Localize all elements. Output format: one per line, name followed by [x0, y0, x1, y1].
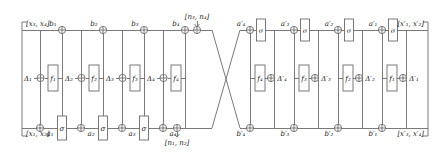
top-label-r1: a′₄ — [237, 20, 246, 28]
noise-top-label: [n₃, n₄] — [185, 13, 210, 21]
xor-bottom-3[interactable] — [118, 124, 125, 131]
xor-top-4[interactable] — [181, 26, 188, 33]
sigma-label-r1: σ — [259, 27, 264, 35]
delta-label-r1: Δ′₄ — [276, 75, 287, 83]
delta-label-3: Δ₃ — [105, 75, 114, 83]
xor-bottom-r4[interactable] — [378, 124, 385, 131]
xor-top-r3[interactable] — [334, 26, 341, 33]
right-bracket — [423, 22, 428, 136]
f-label-3: f₃ — [131, 75, 138, 83]
xor-top-r4[interactable] — [378, 26, 385, 33]
top-label-r2: a′₃ — [281, 20, 290, 28]
f-label-r3: f₂ — [344, 75, 351, 83]
sigma-label-r3: σ — [347, 27, 352, 35]
top-label-4: b₄ — [172, 20, 179, 28]
xor-mid-4[interactable] — [160, 74, 167, 81]
top-label-r3: a′₂ — [325, 20, 334, 28]
xor-bottom-r1[interactable] — [246, 124, 253, 131]
xor-top-2[interactable] — [99, 26, 106, 33]
input-bottom-left-label: [x₁, x₂] — [26, 130, 50, 138]
delta-label-r2: Δ′₃ — [320, 75, 331, 83]
top-label-1: b₁ — [49, 20, 56, 28]
xor-mid-1[interactable] — [37, 74, 44, 81]
f-label-1: f₁ — [49, 75, 56, 83]
top-label-3: b₃ — [131, 20, 138, 28]
top-label-r4: a′₁ — [369, 20, 378, 28]
xor-bottom-2[interactable] — [77, 124, 84, 131]
xor-top-1[interactable] — [58, 26, 65, 33]
noise-bottom-label: [n₁, n₂] — [165, 139, 190, 147]
output-bottom-right-label: [x′₃, x′₄] — [397, 130, 424, 138]
sigma-label-1: σ — [60, 125, 65, 133]
sigma-label-r4: σ — [391, 27, 396, 35]
xor-bottom-r2[interactable] — [290, 124, 297, 131]
sigma-label-3: σ — [142, 125, 147, 133]
top-label-2: b₂ — [90, 20, 97, 28]
bottom-label-r4: b′₁ — [369, 130, 378, 138]
xor-noise-bottom[interactable] — [173, 124, 180, 131]
xor-mid-2[interactable] — [78, 74, 85, 81]
xor-mid-3[interactable] — [119, 74, 126, 81]
f-label-r2: f₃ — [300, 75, 307, 83]
xor-mid-r4[interactable] — [399, 74, 406, 81]
f-label-2: f₂ — [90, 75, 97, 83]
delta-label-2: Δ₂ — [64, 75, 73, 83]
circuit-svg: Δ₁f₁b₁a₁Δ₂f₂b₂a₂Δ₃f₃b₃a₃Δ₄f₄b₄a₄σσσ[n₃, … — [0, 0, 446, 156]
sigma-label-2: σ — [101, 125, 106, 133]
input-top-left-label: [x₃, x₄] — [26, 20, 50, 28]
f-label-r1: f₄ — [256, 75, 263, 83]
xor-bottom-4[interactable] — [159, 124, 166, 131]
bottom-label-r1: b′₄ — [237, 130, 246, 138]
xor-mid-r3[interactable] — [355, 74, 362, 81]
bottom-label-r2: b′₃ — [281, 130, 290, 138]
delta-label-r3: Δ′₂ — [364, 75, 375, 83]
f-label-4: f₄ — [172, 75, 179, 83]
diagram-canvas: Δ₁f₁b₁a₁Δ₂f₂b₂a₂Δ₃f₃b₃a₃Δ₄f₄b₄a₄σσσ[n₃, … — [0, 0, 446, 156]
xor-mid-r2[interactable] — [311, 74, 318, 81]
xor-mid-r1[interactable] — [267, 74, 274, 81]
xor-top-3[interactable] — [140, 26, 147, 33]
xor-top-r2[interactable] — [290, 26, 297, 33]
f-label-r4: f₁ — [388, 75, 395, 83]
delta-label-1: Δ₁ — [23, 75, 32, 83]
output-top-right-label: [x′₁, x′₂] — [397, 20, 424, 28]
bottom-label-3: a₃ — [129, 130, 136, 138]
xor-bottom-r3[interactable] — [334, 124, 341, 131]
delta-label-4: Δ₄ — [146, 75, 155, 83]
bottom-label-2: a₂ — [88, 130, 95, 138]
sigma-label-r2: σ — [303, 27, 308, 35]
bottom-label-r3: b′₂ — [325, 130, 334, 138]
xor-top-r1[interactable] — [246, 26, 253, 33]
delta-label-r4: Δ′₁ — [408, 75, 419, 83]
